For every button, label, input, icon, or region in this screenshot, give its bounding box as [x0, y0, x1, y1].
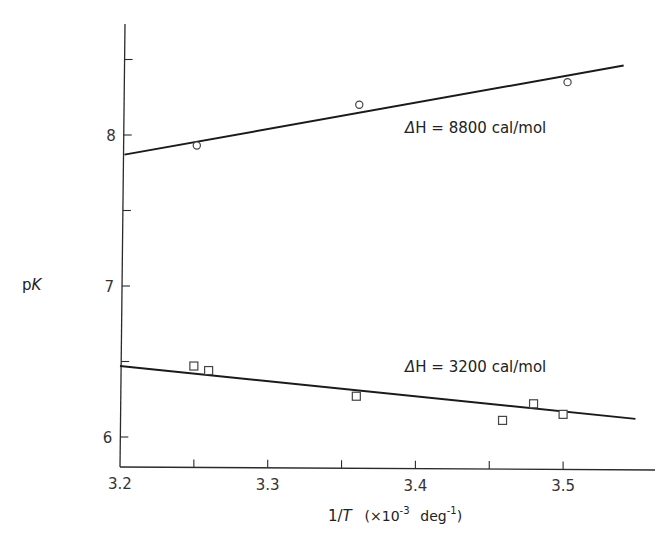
circle-marker	[564, 79, 571, 86]
y-tick-label: 7	[104, 278, 114, 296]
delta-h-annotation: ΔH = 3200 cal/mol	[404, 358, 546, 376]
y-axis-title: pK	[22, 276, 43, 294]
annotations: ΔH = 8800 cal/molΔH = 3200 cal/mol	[404, 119, 546, 376]
pk-vs-inverse-temperature-chart: 3.23.33.43.5678 ΔH = 8800 cal/molΔH = 32…	[0, 0, 672, 550]
y-tick-label: 8	[106, 127, 116, 145]
axes	[120, 24, 655, 470]
x-tick-label: 3.3	[256, 476, 280, 494]
square-marker	[559, 410, 567, 418]
square-marker	[352, 392, 360, 400]
circle-marker	[356, 101, 363, 108]
fit-line	[124, 66, 623, 155]
x-axis-line	[120, 467, 655, 470]
x-tick-label: 3.5	[551, 477, 575, 495]
delta-h-annotation: ΔH = 8800 cal/mol	[404, 119, 546, 137]
square-marker	[205, 367, 213, 375]
square-marker	[530, 400, 538, 408]
y-tick-label: 6	[103, 429, 113, 447]
circle-marker	[193, 142, 200, 149]
square-marker	[190, 362, 198, 370]
x-tick-label: 3.2	[108, 475, 132, 493]
fit-line	[120, 366, 635, 419]
y-axis-line	[120, 24, 125, 467]
x-axis-title: 1/T (×10-3 deg-1)	[328, 500, 462, 525]
square-marker	[499, 416, 507, 424]
x-tick-label: 3.4	[403, 477, 427, 495]
